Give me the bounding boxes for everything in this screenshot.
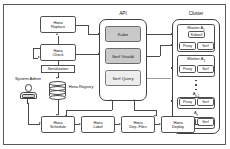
worker-sub: 2 (203, 58, 205, 62)
selfloop-top (33, 48, 40, 49)
connector-vivaldi-up (160, 45, 161, 56)
arrowhead-bottom-to-api-2 (133, 99, 135, 101)
cluster-ellipsis-icon (195, 80, 197, 90)
node-hona-replace-line2: Replace (51, 25, 65, 29)
connector-deploy-to-cluster (195, 124, 199, 125)
arrowhead-label-depfiles (119, 123, 121, 125)
node-hona-deploy-line2: Deploy (172, 125, 184, 129)
node-hona-schedule[interactable]: Hona Schedule (41, 116, 75, 133)
registry-line1: Hona (69, 84, 78, 89)
node-worker-serf[interactable]: Serf (197, 65, 214, 73)
master-prefix: Master (187, 25, 199, 30)
hona-registry-label: Hona Registry (67, 85, 95, 89)
arrowhead-selfloop (38, 56, 40, 58)
node-hona-replace[interactable]: Hona Replace (40, 16, 76, 33)
connector-query-to-worker (147, 78, 171, 79)
node-hona-deploy[interactable]: Hona Deploy (161, 116, 195, 133)
cluster-panel-title: Cluster (172, 11, 220, 16)
node-n1-serf[interactable]: Serf (197, 98, 214, 106)
cluster-port-2 (171, 44, 173, 46)
connector-replace-to-api (88, 34, 99, 35)
connector-api-down-left (112, 101, 113, 110)
connector-registry-down (58, 99, 59, 115)
connector-replace-right (76, 25, 88, 26)
connector-check-to-serialization (58, 61, 59, 65)
connector-api-down-right (134, 101, 135, 110)
service-kube[interactable]: Kube (105, 26, 141, 42)
cluster-port-1 (171, 33, 173, 35)
node-master-proxy[interactable]: Proxy (179, 42, 196, 50)
serialization-label: Serialization (41, 65, 75, 73)
architecture-diagram: System Admin Hona Replace Hona Check Ser… (0, 0, 230, 149)
arrowhead-check-replace (56, 33, 58, 35)
node-hona-check[interactable]: Hona Check (40, 44, 76, 61)
arrowhead-serialization-registry (56, 77, 58, 79)
cluster-group-worker-label: Worker A2 (177, 56, 215, 63)
cluster-port-4 (171, 100, 173, 102)
user-actor-icon (19, 84, 37, 104)
node-n1-proxy[interactable]: Proxy (179, 98, 196, 106)
service-serf-query[interactable]: Serf Query (105, 70, 141, 86)
connector-kube-to-master (147, 34, 171, 35)
connector-admin-down (28, 103, 29, 124)
connector-vivaldi-out (147, 56, 160, 57)
node-hona-label[interactable]: Hona Label (81, 116, 115, 133)
connector-vivaldi-to-cluster (160, 45, 172, 46)
cluster-port-3 (171, 67, 173, 69)
selfloop-left (33, 48, 34, 58)
node-worker-proxy[interactable]: Proxy (179, 65, 196, 73)
actor-arm-icon (22, 94, 35, 97)
api-panel-title: API (99, 11, 147, 16)
node-hona-check-line2: Check (53, 53, 64, 57)
actor-head-icon (25, 84, 33, 92)
node-kubectl[interactable]: Kubectl (188, 31, 205, 38)
node-hona-schedule-line2: Schedule (50, 125, 66, 129)
connector-check-to-api (76, 54, 99, 55)
node-hona-dep-files[interactable]: Hona Dep. Files (121, 116, 155, 133)
connector-replace-down (88, 25, 89, 35)
database-cylinder-icon (49, 81, 66, 99)
worker-prefix: Worker (187, 56, 200, 61)
arrowhead-schedule-label (79, 123, 81, 125)
arrowhead-depfiles-deploy (159, 123, 161, 125)
system-admin-label: System Admin (6, 76, 50, 81)
node-hona-label-line2: Label (93, 125, 102, 129)
arrowhead-bottom-to-api-1 (110, 99, 112, 101)
registry-line2: Registry (79, 84, 93, 89)
connector-api-bottom-right-h (134, 110, 156, 111)
node-master-serf[interactable]: Serf (197, 42, 214, 50)
node-hona-dep-files-line2: Dep. Files (129, 125, 146, 129)
service-serf-vivaldi[interactable]: Serf Vivaldi (105, 48, 141, 64)
connector-admin-to-schedule (28, 124, 40, 125)
node-n-serf[interactable]: Serf (197, 118, 214, 126)
connector-api-bottom-left-h (66, 110, 112, 111)
connector-check-to-replace (58, 36, 59, 45)
